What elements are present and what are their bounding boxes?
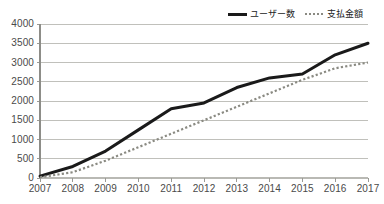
series-line-users <box>40 43 368 176</box>
